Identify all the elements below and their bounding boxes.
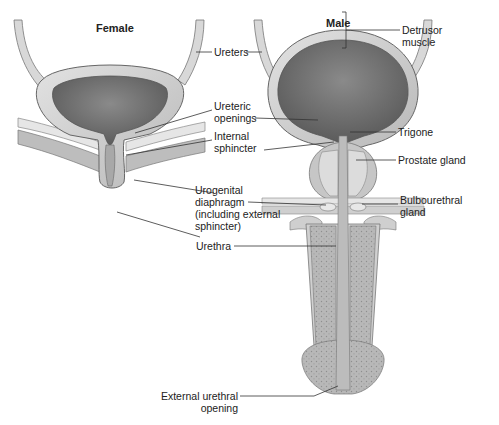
- left-bulbourethral-gland: [320, 203, 336, 211]
- label-prostate-gland: Prostate gland: [398, 154, 466, 166]
- label-external-urethral-opening: External urethral opening: [155, 390, 238, 414]
- female-title: Female: [96, 22, 134, 34]
- female-urethra: [105, 145, 115, 186]
- label-internal-sphincter: Internal sphincter: [214, 130, 257, 154]
- label-detrusor-muscle: Detrusor muscle: [402, 24, 442, 48]
- label-trigone: Trigone: [398, 126, 433, 138]
- label-urethra: Urethra: [196, 240, 231, 252]
- female-right-ureter: [178, 20, 204, 85]
- label-ureteric-openings: Ureteric openings: [214, 100, 257, 124]
- female-diagram: [14, 20, 205, 188]
- label-urogenital-diaphragm: Urogenital diaphragm (including external…: [195, 184, 280, 232]
- label-ureters: Ureters: [214, 46, 248, 58]
- male-title: Male: [326, 17, 350, 29]
- label-bulbourethral-gland: Bulbourethral gland: [400, 194, 462, 218]
